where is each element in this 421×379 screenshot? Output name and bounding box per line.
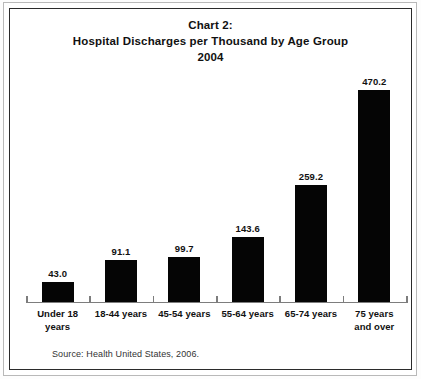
chart-title: Chart 2: Hospital Discharges per Thousan… <box>10 17 411 65</box>
category-label-line: and over <box>343 321 406 334</box>
chart-title-line-1: Chart 2: <box>10 17 411 33</box>
plot-area: 43.091.199.7143.6259.2470.2 <box>26 71 406 303</box>
category-label: 65-74 years <box>279 308 342 333</box>
bar-slot: 470.2 <box>343 72 406 302</box>
bar-slot: 259.2 <box>279 72 342 302</box>
bar-series: 43.091.199.7143.6259.2470.2 <box>26 72 406 302</box>
bar[interactable] <box>232 237 264 302</box>
bar-slot: 143.6 <box>216 72 279 302</box>
category-label: 55-64 years <box>216 308 279 333</box>
bar[interactable] <box>42 282 74 301</box>
bar-value-label: 91.1 <box>112 246 131 257</box>
x-axis-tick <box>279 296 281 303</box>
chart-title-line-2: Hospital Discharges per Thousand by Age … <box>10 33 411 49</box>
category-label-line: 45-54 years <box>153 308 216 321</box>
category-label-line: 18-44 years <box>89 308 152 321</box>
x-axis-tick <box>153 296 155 303</box>
x-axis-tick <box>406 296 408 303</box>
bar[interactable] <box>168 257 200 302</box>
category-label-line: 55-64 years <box>216 308 279 321</box>
category-label: 75 yearsand over <box>343 308 406 333</box>
category-label: 18-44 years <box>89 308 152 333</box>
x-axis-category-labels: Under 18years18-44 years45-54 years55-64… <box>26 308 406 333</box>
bar-value-label: 259.2 <box>299 171 323 182</box>
bar-value-label: 99.7 <box>175 243 194 254</box>
chart-title-line-3: 2004 <box>10 49 411 65</box>
source-note: Source: Health United States, 2006. <box>52 349 199 359</box>
bar-slot: 43.0 <box>26 72 89 302</box>
bar-value-label: 470.2 <box>362 76 386 87</box>
x-axis-tick <box>216 296 218 303</box>
bar-value-label: 43.0 <box>48 268 67 279</box>
scanned-page: Chart 2: Hospital Discharges per Thousan… <box>0 0 421 379</box>
bar-slot: 99.7 <box>153 72 216 302</box>
bar[interactable] <box>358 90 390 302</box>
category-label: 45-54 years <box>153 308 216 333</box>
chart-container: Chart 2: Hospital Discharges per Thousan… <box>9 8 412 370</box>
x-axis-tick <box>26 296 28 303</box>
bar[interactable] <box>295 185 327 302</box>
category-label-line: Under 18 <box>26 308 89 321</box>
category-label-line: 65-74 years <box>279 308 342 321</box>
x-axis-tick <box>89 296 91 303</box>
bar[interactable] <box>105 260 137 301</box>
bar-value-label: 143.6 <box>236 223 260 234</box>
bar-slot: 91.1 <box>89 72 152 302</box>
category-label-line: 75 years <box>343 308 406 321</box>
x-axis-tick <box>343 296 345 303</box>
category-label-line: years <box>26 321 89 334</box>
category-label: Under 18years <box>26 308 89 333</box>
